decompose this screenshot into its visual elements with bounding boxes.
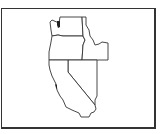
state-washington xyxy=(50,17,83,36)
state-oregon xyxy=(49,35,85,60)
western-us-map xyxy=(0,0,162,134)
state-idaho xyxy=(82,17,108,60)
